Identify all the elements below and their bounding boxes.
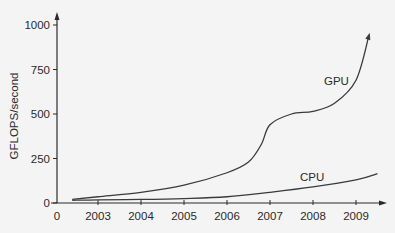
x-tick-label: 2005 [171, 210, 197, 222]
cpu-series-line [72, 174, 377, 201]
gpu-arrow-icon [365, 33, 370, 40]
y-axis-title: GFLOPS/second [8, 73, 20, 160]
x-tick-label: 2004 [128, 210, 154, 222]
y-tick-label: 1000 [24, 19, 50, 31]
y-ticks: 02505007501000 [24, 19, 57, 209]
y-axis-arrow-icon [55, 12, 60, 20]
y-tick-label: 750 [31, 64, 50, 76]
cpu-label: CPU [300, 171, 324, 183]
y-tick-label: 250 [31, 153, 50, 165]
x-tick-label: 2006 [214, 210, 240, 222]
x-tick-label: 2009 [343, 210, 369, 222]
y-tick-label: 0 [44, 197, 50, 209]
gpu-series-line [72, 36, 369, 200]
x-tick-label: 0 [54, 210, 60, 222]
y-axis [55, 12, 60, 203]
x-tick-label: 2007 [257, 210, 283, 222]
x-tick-label: 2003 [85, 210, 111, 222]
chart: 02505007501000 0200320042005200620072008… [0, 0, 395, 233]
x-axis [51, 201, 387, 206]
gpu-label: GPU [324, 75, 349, 87]
x-axis-arrow-icon [379, 201, 387, 206]
y-tick-label: 500 [31, 108, 50, 120]
x-tick-label: 2008 [300, 210, 326, 222]
